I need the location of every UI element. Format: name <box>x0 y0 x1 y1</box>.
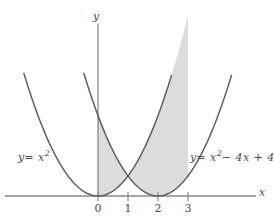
curve-label-left-exponent: 2 <box>45 149 50 158</box>
curve-label-left-eq: = x <box>24 151 44 164</box>
curve-label-right-eq: = x <box>196 151 216 164</box>
x-axis-label: x <box>259 187 265 198</box>
curve-label-right: y= x2− 4x + 4 <box>190 152 274 163</box>
math-figure: y x 0 1 2 3 y= x2 y= x2− 4x + 4 <box>0 0 274 220</box>
plot-canvas <box>0 0 274 220</box>
x-tick-label-0: 0 <box>88 203 108 214</box>
curve-label-left: y= x2 <box>18 152 50 163</box>
x-tick-label-2: 2 <box>148 203 168 214</box>
x-tick-label-3: 3 <box>178 203 198 214</box>
y-axis-label: y <box>93 11 99 22</box>
curve-label-right-rest: − 4x + 4 <box>222 151 274 164</box>
x-tick-label-1: 1 <box>118 203 138 214</box>
shaded-region-fill-2 <box>128 15 188 196</box>
